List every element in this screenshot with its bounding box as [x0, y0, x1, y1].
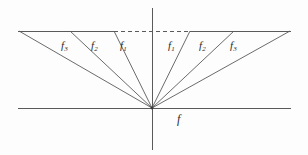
ray-label-right-f2: f2 — [199, 40, 206, 51]
ray-left-f3 — [19, 31, 152, 108]
ray-left-f2 — [70, 31, 152, 108]
figure-container: f3 f2 f1 f1 f2 f3 f — [0, 0, 308, 155]
ray-label-left-f2: f2 — [91, 40, 98, 51]
ray-label-right-f1: f1 — [168, 40, 175, 51]
diagram-canvas — [0, 0, 308, 155]
ray-label-left-f1: f1 — [120, 40, 127, 51]
f-axis-label: f — [177, 113, 180, 125]
origin-point — [151, 107, 154, 110]
ray-label-left-f3: f3 — [61, 40, 68, 51]
ray-label-right-f3: f3 — [230, 40, 237, 51]
